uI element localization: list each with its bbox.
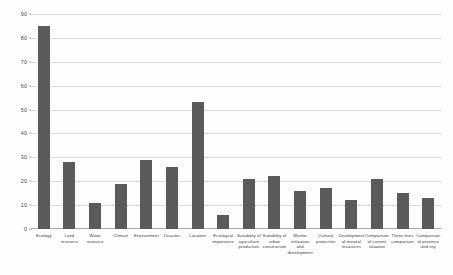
bar-series — [31, 14, 441, 229]
bar-chart: 0102030405060708090 EcologyLand resource… — [0, 0, 453, 275]
y-tick-label: 30 — [21, 154, 27, 160]
x-tick-label: Disaster — [159, 233, 185, 239]
bar — [140, 160, 152, 229]
bar — [38, 26, 50, 229]
x-tick-label: Suitability of agriculture production — [236, 233, 262, 250]
x-tick-label: Ecological importance — [210, 233, 236, 244]
y-tick-label: 50 — [21, 107, 27, 113]
bar — [371, 179, 383, 229]
x-tick-label: Environment — [133, 233, 159, 239]
x-tick-label: Water resource — [82, 233, 108, 244]
x-tick-label: Cultural protection — [313, 233, 339, 244]
y-tick-label: 60 — [21, 83, 27, 89]
bar — [320, 188, 332, 229]
bar — [89, 203, 101, 229]
bar — [294, 191, 306, 229]
bar — [115, 184, 127, 229]
x-tick-label: Suitability of urban construction — [261, 233, 287, 250]
y-tick-label: 40 — [21, 130, 27, 136]
y-tick-label: 90 — [21, 11, 27, 17]
bar — [268, 176, 280, 229]
bar — [422, 198, 434, 229]
x-tick-label: Comparison of current situation — [364, 233, 390, 250]
x-tick-label: Marine utilization and development — [287, 233, 313, 255]
bar — [63, 162, 75, 229]
bar — [192, 102, 204, 229]
bar — [166, 167, 178, 229]
y-tick-label: 80 — [21, 35, 27, 41]
y-tick-label: 10 — [21, 202, 27, 208]
x-tick-label: Location — [185, 233, 211, 239]
y-tick-label: 70 — [21, 59, 27, 65]
x-tick-label: Three-lines comparison — [390, 233, 416, 244]
x-axis-labels: EcologyLand resourceWater resourceClimat… — [31, 233, 441, 275]
bar — [217, 215, 229, 229]
x-tick-label: Comparison of province and city — [415, 233, 441, 250]
y-tick-label: 0 — [24, 226, 27, 232]
plot-area — [31, 14, 441, 229]
bar — [345, 200, 357, 229]
x-tick-label: Land resource — [56, 233, 82, 244]
x-tick-label: Development of mineral resources — [338, 233, 364, 250]
y-axis: 0102030405060708090 — [0, 14, 31, 229]
bar — [397, 193, 409, 229]
x-tick-label: Climate — [108, 233, 134, 239]
x-tick-label: Ecology — [31, 233, 57, 239]
bar — [243, 179, 255, 229]
y-tick-label: 20 — [21, 178, 27, 184]
